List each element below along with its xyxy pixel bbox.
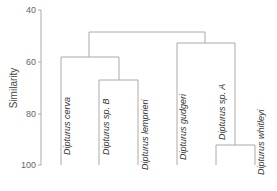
tick-label-40: 40	[26, 5, 36, 15]
tick-label-60: 60	[26, 57, 36, 67]
leaf-label-spA: Dipturus sp. A	[217, 84, 227, 140]
y-axis-label: Similarity	[8, 68, 19, 109]
dendrogram-chart: 40 60 80 100 Similarity Dipturus cerva D…	[0, 0, 277, 191]
leaf-label-gudgeri: Dipturus gudgeri	[178, 93, 188, 160]
leaf-label-lemprieri: Dipturus lemprieri	[140, 98, 150, 170]
leaf-label-whitleyi: Dipturus whitleyi	[256, 108, 266, 175]
leaf-label-cerva: Dipturus cerva	[62, 97, 72, 155]
tick-label-100: 100	[21, 160, 36, 170]
leaf-label-spB: Dipturus sp. B	[101, 98, 111, 155]
y-axis: 40 60 80 100 Similarity	[8, 5, 41, 170]
root-branch	[89, 32, 205, 57]
tick-label-80: 80	[26, 109, 36, 119]
spA-whitleyi-branch	[216, 145, 255, 165]
